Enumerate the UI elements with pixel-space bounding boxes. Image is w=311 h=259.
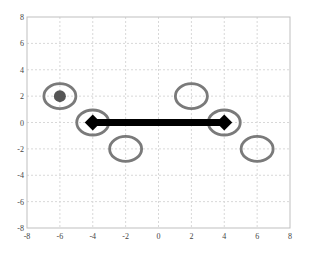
- filled-point-markers: [54, 90, 66, 102]
- x-tick-label: -4: [89, 232, 96, 241]
- x-tick-label: -2: [122, 232, 129, 241]
- diamond-marker: [85, 115, 101, 131]
- x-tick-label: 6: [255, 232, 259, 241]
- x-tick-label: -6: [57, 232, 64, 241]
- y-tick-label: 4: [20, 66, 24, 75]
- y-axis-tick-labels: 86420-2-4-6-8: [17, 13, 24, 233]
- x-tick-label: 4: [222, 232, 226, 241]
- filled-point: [54, 90, 66, 102]
- y-tick-label: 8: [20, 13, 24, 22]
- y-tick-label: -8: [17, 224, 24, 233]
- x-tick-label: -8: [24, 232, 31, 241]
- x-axis-tick-labels: -8-6-4-202468: [24, 232, 292, 241]
- x-tick-label: 0: [157, 232, 161, 241]
- y-tick-label: -6: [17, 198, 24, 207]
- y-tick-label: -4: [17, 171, 24, 180]
- x-tick-label: 8: [288, 232, 292, 241]
- y-tick-label: 2: [20, 92, 24, 101]
- x-tick-label: 2: [189, 232, 193, 241]
- y-tick-label: 6: [20, 39, 24, 48]
- chart: -8-6-4-202468 86420-2-4-6-8: [0, 0, 311, 259]
- y-tick-label: -2: [17, 145, 24, 154]
- diamond-marker: [216, 115, 232, 131]
- y-tick-label: 0: [20, 119, 24, 128]
